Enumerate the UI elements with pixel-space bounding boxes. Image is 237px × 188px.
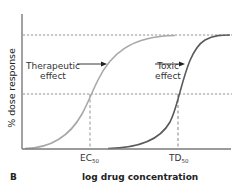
therapeutic-curve [25, 36, 175, 149]
therapeutic-effect-annotation: Therapeutic effect [26, 61, 80, 81]
toxic-curve [108, 35, 230, 149]
ec50-tick-label: EC50 [80, 153, 99, 164]
toxic-annotation-line2: effect [150, 71, 186, 81]
x-axis-label: log drug concentration [82, 172, 198, 182]
panel-label: B [10, 172, 17, 182]
td-subscript: 50 [181, 158, 188, 164]
y-axis-label: % dose response [6, 38, 18, 138]
td50-tick-label: TD50 [169, 153, 188, 164]
toxic-effect-annotation: Toxic effect [150, 61, 186, 81]
dose-response-chart: % dose response Therapeutic effect Toxic… [0, 0, 237, 188]
td-label: TD [169, 153, 181, 163]
therapeutic-annotation-line1: Therapeutic [26, 61, 80, 71]
ec-label: EC [80, 153, 92, 163]
ec-subscript: 50 [92, 158, 99, 164]
chart-plot-area [0, 0, 237, 188]
toxic-annotation-line1: Toxic [150, 61, 186, 71]
therapeutic-annotation-line2: effect [26, 71, 80, 81]
